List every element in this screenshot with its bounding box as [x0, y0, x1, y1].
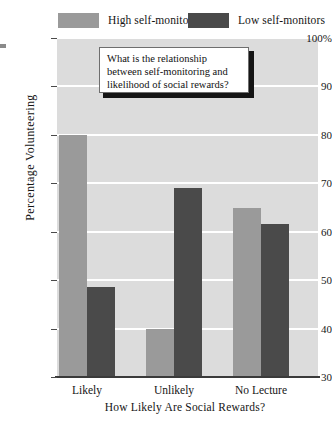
gridline-80 — [57, 134, 318, 136]
callout-line-1: What is the relationship — [107, 52, 242, 65]
scan-artifact — [0, 44, 6, 48]
y-tick-label-100: 100% — [286, 32, 332, 44]
y-tick-label-90: 90 — [286, 80, 332, 92]
callout-line-3: likelihood of social rewards? — [107, 78, 242, 91]
chart-legend: High self-monitors Low self-monitors — [0, 10, 332, 32]
callout-line-2: between self-monitoring and — [107, 65, 242, 78]
x-tick-label-likely: Likely — [37, 383, 137, 397]
y-tick-label-40: 40 — [286, 323, 332, 335]
bar-no-lecture-high — [233, 208, 261, 378]
y-tick-mark-90 — [51, 86, 57, 87]
y-tick-label-50: 50 — [286, 274, 332, 286]
y-tick-mark-100 — [51, 38, 57, 39]
x-axis-title: How Likely Are Social Rewards? — [50, 401, 320, 413]
x-axis-line — [55, 376, 320, 378]
y-tick-mark-70 — [51, 183, 57, 184]
legend-swatch-low-self-monitors — [188, 13, 229, 28]
bar-no-lecture-low — [261, 224, 289, 377]
gridline-100 — [57, 38, 318, 39]
gridline-70 — [57, 182, 318, 184]
question-callout: What is the relationship between self-mo… — [99, 47, 249, 93]
bar-likely-low — [87, 287, 115, 377]
y-tick-mark-50 — [51, 280, 57, 281]
y-tick-label-60: 60 — [286, 226, 332, 238]
legend-label-low-self-monitors: Low self-monitors — [238, 13, 325, 27]
bar-unlikely-low — [174, 188, 202, 377]
y-tick-mark-80 — [51, 135, 57, 136]
legend-swatch-high-self-monitors — [58, 13, 99, 28]
y-tick-mark-40 — [51, 329, 57, 330]
y-tick-label-30: 30 — [286, 371, 332, 383]
legend-entry-high-self-monitors: High self-monitors — [58, 10, 197, 30]
x-tick-label-no-lecture: No Lecture — [211, 383, 311, 397]
y-axis-title: Percentage Volunteering — [23, 58, 38, 258]
bar-likely-high — [59, 135, 87, 377]
y-tick-mark-30 — [51, 377, 57, 378]
bar-chart-figure: High self-monitors Low self-monitors 100… — [0, 0, 332, 427]
legend-label-high-self-monitors: High self-monitors — [108, 13, 197, 27]
y-tick-label-80: 80 — [286, 129, 332, 141]
bar-unlikely-high — [146, 329, 174, 377]
legend-entry-low-self-monitors: Low self-monitors — [188, 10, 325, 30]
y-tick-label-70: 70 — [286, 177, 332, 189]
x-tick-label-unlikely: Unlikely — [124, 383, 224, 397]
y-tick-mark-60 — [51, 232, 57, 233]
